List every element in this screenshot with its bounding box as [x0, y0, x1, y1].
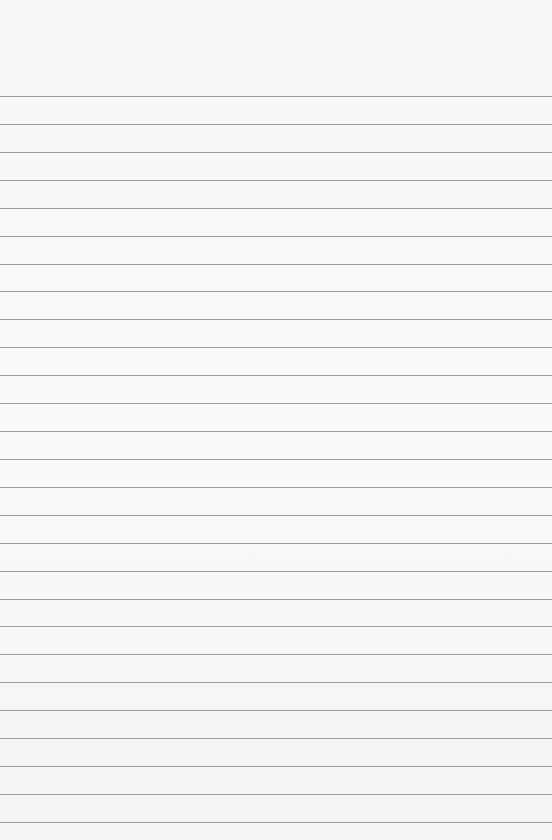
ruled-line: [0, 682, 552, 683]
ruled-line: [0, 180, 552, 181]
ruled-line: [0, 319, 552, 320]
ruled-line: [0, 264, 552, 265]
ruled-line: [0, 124, 552, 125]
ruled-line: [0, 236, 552, 237]
ruled-line: [0, 152, 552, 153]
ruled-line: [0, 347, 552, 348]
ruled-line: [0, 459, 552, 460]
ruled-line: [0, 626, 552, 627]
ruled-line: [0, 822, 552, 823]
ruled-line: [0, 431, 552, 432]
ruled-line: [0, 375, 552, 376]
ruled-line: [0, 515, 552, 516]
lined-paper: [0, 0, 552, 840]
ruled-line: [0, 738, 552, 739]
ruled-line: [0, 710, 552, 711]
ruled-line: [0, 599, 552, 600]
ruled-line: [0, 403, 552, 404]
ruled-line: [0, 766, 552, 767]
ruled-line: [0, 543, 552, 544]
ruled-line: [0, 794, 552, 795]
ruled-line: [0, 487, 552, 488]
ruled-line: [0, 291, 552, 292]
ruled-line: [0, 208, 552, 209]
ruled-line: [0, 96, 552, 97]
ruled-line: [0, 571, 552, 572]
ruled-line: [0, 654, 552, 655]
